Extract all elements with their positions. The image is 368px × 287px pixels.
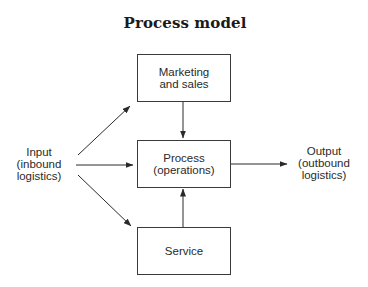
marketing-label-line-2: and sales <box>159 78 210 90</box>
service-box: Service <box>137 227 231 275</box>
service-label: Service <box>165 245 203 257</box>
process-model-diagram: Process model Marketing and sales Proces… <box>0 0 368 287</box>
marketing-label-line-1: Marketing <box>159 66 210 78</box>
input-label-line-3: logistics) <box>8 170 70 182</box>
input-label-line-1: Input <box>8 146 70 158</box>
output-label-line-3: logistics) <box>290 169 358 181</box>
marketing-and-sales-box: Marketing and sales <box>137 54 231 102</box>
input-inbound-logistics-label: Input (inbound logistics) <box>8 146 70 182</box>
arrow-input-to-marketing <box>78 106 130 155</box>
process-operations-box: Process (operations) <box>137 140 231 188</box>
output-label-line-1: Output <box>290 145 358 157</box>
input-label-line-2: (inbound <box>8 158 70 170</box>
process-label-line-1: Process <box>153 152 214 164</box>
output-label-line-2: (outbound <box>290 157 358 169</box>
process-label-line-2: (operations) <box>153 164 214 176</box>
arrow-input-to-service <box>78 175 131 226</box>
output-outbound-logistics-label: Output (outbound logistics) <box>290 145 358 181</box>
